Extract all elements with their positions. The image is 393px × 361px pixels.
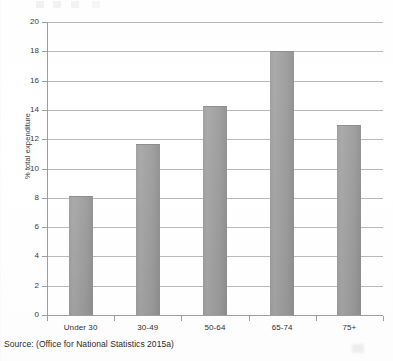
y-axis-tick	[42, 110, 47, 111]
bar	[337, 125, 361, 315]
x-axis-category-label: 65-74	[249, 323, 316, 333]
y-axis-line	[47, 22, 48, 316]
scan-artifact-bottom	[352, 344, 364, 353]
y-axis-tick	[42, 139, 47, 140]
y-axis-tick-label: 20	[13, 18, 39, 26]
gridline	[47, 22, 383, 23]
x-axis-tick	[249, 316, 250, 321]
x-axis-line	[47, 315, 383, 316]
y-axis-tick-label: 10	[13, 165, 39, 173]
y-axis-tick	[42, 286, 47, 287]
plot-area	[47, 22, 383, 315]
y-axis-tick-label: 18	[13, 47, 39, 55]
y-axis-tick-label: 14	[13, 106, 39, 114]
y-axis-tick	[42, 256, 47, 257]
y-axis-tick-label: 2	[13, 282, 39, 290]
x-axis-category-label: 75+	[316, 323, 383, 333]
x-axis-tick	[181, 316, 182, 321]
source-caption: Source: (Office for National Statistics …	[4, 339, 174, 350]
x-axis-category-label: 30-49	[114, 323, 181, 333]
x-axis-category-label: 50-64	[181, 323, 248, 333]
y-axis-tick	[42, 81, 47, 82]
x-axis-tick	[383, 316, 384, 321]
bar-chart-figure: % total expenditure 02468101214161820 Un…	[0, 0, 393, 361]
gridline	[47, 81, 383, 82]
y-axis-tick-label: 0	[13, 311, 39, 319]
x-axis-category-label: Under 30	[47, 323, 114, 333]
gridline	[47, 51, 383, 52]
y-axis-tick-label: 12	[13, 135, 39, 143]
x-axis-tick	[316, 316, 317, 321]
y-axis-tick-label: 6	[13, 223, 39, 231]
y-axis-tick	[42, 51, 47, 52]
y-axis-tick-label: 16	[13, 77, 39, 85]
bar	[69, 196, 93, 315]
y-axis-tick	[42, 198, 47, 199]
x-axis-tick	[114, 316, 115, 321]
bar	[270, 51, 294, 315]
y-axis-tick	[42, 227, 47, 228]
y-axis-tick	[42, 22, 47, 23]
bar	[203, 106, 227, 315]
y-axis-tick	[42, 169, 47, 170]
y-axis-tick-labels: 02468101214161820	[8, 0, 39, 361]
x-axis-tick	[47, 316, 48, 321]
y-axis-tick-label: 4	[13, 252, 39, 260]
y-axis-tick-label: 8	[13, 194, 39, 202]
bar	[136, 144, 160, 315]
